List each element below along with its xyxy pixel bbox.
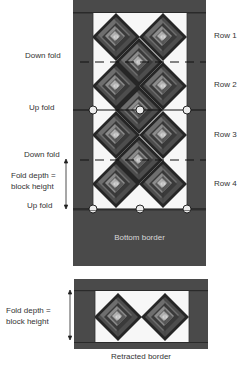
label-fold-depth-line2: block height bbox=[11, 182, 54, 192]
label-bottom-border: Bottom border bbox=[73, 233, 206, 242]
label-row-2: Row 2 bbox=[214, 80, 237, 90]
label-retracted-fold-depth-line2: block height bbox=[6, 317, 49, 327]
label-down-fold-1: Down fold bbox=[25, 51, 61, 61]
fold-depth-arrow bbox=[64, 159, 67, 209]
label-retracted-fold-depth-line1: Fold depth = bbox=[6, 306, 51, 316]
retracted-fold-depth-arrow bbox=[68, 290, 71, 340]
label-up-fold-2: Up fold bbox=[27, 201, 52, 211]
label-row-4: Row 4 bbox=[214, 179, 237, 189]
label-up-fold-1: Up fold bbox=[29, 103, 54, 113]
label-retracted-border: Retracted border bbox=[74, 352, 208, 362]
retracted-border-panel bbox=[74, 279, 208, 349]
label-down-fold-2: Down fold bbox=[24, 150, 60, 160]
label-row-1: Row 1 bbox=[214, 31, 237, 41]
label-row-3: Row 3 bbox=[214, 130, 237, 140]
main-quilt-panel bbox=[73, 0, 206, 266]
label-fold-depth-line1: Fold depth = bbox=[11, 171, 56, 181]
